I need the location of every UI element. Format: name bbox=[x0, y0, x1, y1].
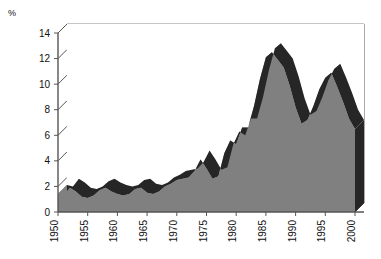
x-tick-label: 1990 bbox=[287, 220, 298, 243]
y-tick-label: 4 bbox=[44, 155, 50, 166]
x-tick-label: 1955 bbox=[79, 220, 90, 243]
y-tick-label: 14 bbox=[39, 28, 51, 39]
y-tick-label: 0 bbox=[44, 207, 50, 218]
x-tick-label: 1985 bbox=[257, 220, 268, 243]
x-tick-label: 1965 bbox=[138, 220, 149, 243]
y-tick-labels-group: 02468101214 bbox=[39, 28, 51, 218]
chart-container: % 02468101214 19501955196019651970197519… bbox=[0, 0, 381, 259]
y-tick-label: 2 bbox=[44, 181, 50, 192]
y-tick-label: 12 bbox=[39, 53, 51, 64]
x-tick-label: 1950 bbox=[49, 220, 60, 243]
x-tick-label: 1970 bbox=[168, 220, 179, 243]
x-tick-label: 1975 bbox=[198, 220, 209, 243]
area-chart-svg: 02468101214 1950195519601965197019751980… bbox=[0, 0, 381, 259]
x-tick-labels-group: 1950195519601965197019751980198519901995… bbox=[49, 220, 357, 243]
y-tick-label: 8 bbox=[44, 104, 50, 115]
x-tick-label: 2000 bbox=[346, 220, 357, 243]
x-tick-label: 1980 bbox=[227, 220, 238, 243]
x-tick-label: 1995 bbox=[316, 220, 327, 243]
y-tick-label: 10 bbox=[39, 79, 51, 90]
x-tick-label: 1960 bbox=[108, 220, 119, 243]
y-tick-label: 6 bbox=[44, 130, 50, 141]
